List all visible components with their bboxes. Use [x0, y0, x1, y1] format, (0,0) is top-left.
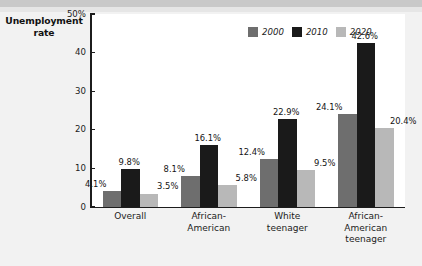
bar-2010-white-teenager[interactable] — [278, 14, 297, 207]
y-tick-label-30: 30 — [46, 87, 86, 96]
bar-2020-overall[interactable] — [140, 14, 159, 207]
bar-rect — [260, 159, 279, 207]
bar-group — [181, 14, 237, 207]
y-tick-label-20: 20 — [46, 125, 86, 134]
bar-group — [260, 14, 316, 207]
bar-rect — [181, 176, 200, 207]
y-axis-title-line2: rate — [34, 27, 55, 38]
x-axis-label-3: African-Americanteenager — [321, 211, 411, 246]
bar-rect — [338, 114, 357, 207]
bar-2000-african-american[interactable] — [181, 14, 200, 207]
bars-layer: 4.1%9.8%3.5%8.1%16.1%5.8%12.4%22.9%9.5%2… — [91, 14, 405, 207]
bar-rect — [357, 43, 376, 207]
bar-rect — [278, 119, 297, 207]
bar-rect — [103, 191, 122, 207]
x-axis-label-line: teenager — [267, 223, 308, 233]
bar-2010-african-american-teenager[interactable] — [357, 14, 376, 207]
bar-rect — [297, 170, 316, 207]
y-tick-label-10: 10 — [46, 164, 86, 173]
legend-item-2020[interactable]: 2020 — [336, 27, 372, 37]
legend-swatch-2000 — [248, 27, 258, 37]
unemployment-rate-bar-chart: Unemployment rate 01020304050% 4.1%9.8%3… — [0, 0, 422, 266]
bar-2020-white-teenager[interactable] — [297, 14, 316, 207]
x-axis-label-0: Overall — [85, 211, 175, 223]
x-axis-label-2: Whiteteenager — [242, 211, 332, 234]
bar-2000-overall[interactable] — [103, 14, 122, 207]
x-axis-label-line: African- — [348, 211, 383, 221]
legend-item-2010[interactable]: 2010 — [292, 27, 328, 37]
x-axis-label-line: White — [274, 211, 300, 221]
legend-label-2000: 2000 — [262, 28, 284, 37]
chart-legend: 200020102020 — [248, 27, 372, 37]
bar-rect — [375, 128, 394, 207]
x-axis-label-line: teenager — [345, 234, 386, 244]
bar-rect — [200, 145, 219, 207]
x-axis-line — [90, 207, 405, 209]
bar-group — [338, 14, 394, 207]
bar-2020-african-american-teenager[interactable] — [375, 14, 394, 207]
bar-2020-african-american[interactable] — [218, 14, 237, 207]
x-axis-label-line: African- — [191, 211, 226, 221]
x-axis-label-line: Overall — [114, 211, 146, 221]
y-tick-label-50: 50% — [46, 10, 86, 19]
y-axis-line — [90, 14, 92, 208]
legend-swatch-2010 — [292, 27, 302, 37]
bar-2010-african-american[interactable] — [200, 14, 219, 207]
bar-2010-overall[interactable] — [121, 14, 140, 207]
legend-label-2020: 2020 — [350, 28, 372, 37]
x-axis-label-1: African-American — [164, 211, 254, 234]
bar-2000-white-teenager[interactable] — [260, 14, 279, 207]
bar-group — [103, 14, 159, 207]
bar-rect — [218, 185, 237, 207]
x-axis-label-line: American — [187, 223, 230, 233]
x-axis-label-line: American — [344, 223, 387, 233]
bar-rect — [140, 194, 159, 208]
y-tick-label-40: 40 — [46, 48, 86, 57]
bar-2000-african-american-teenager[interactable] — [338, 14, 357, 207]
legend-swatch-2020 — [336, 27, 346, 37]
legend-item-2000[interactable]: 2000 — [248, 27, 284, 37]
legend-label-2010: 2010 — [306, 28, 328, 37]
bar-rect — [121, 169, 140, 207]
y-tick-label-0: 0 — [46, 203, 86, 212]
